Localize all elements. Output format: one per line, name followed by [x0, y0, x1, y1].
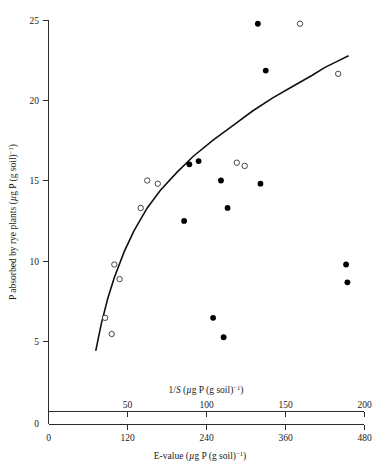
data-point	[335, 71, 340, 76]
data-point	[225, 205, 231, 211]
data-point	[102, 315, 107, 320]
data-point	[210, 315, 216, 321]
y-axis: 25 20 15 10 5 0 P absorbed by rye plants…	[7, 16, 49, 430]
scatter-plot-svg: 25 20 15 10 5 0 P absorbed by rye plants…	[0, 0, 381, 470]
x-axis-title: E-value (µg P (g soil)−1)	[154, 450, 246, 462]
y-ticklabel-15: 15	[30, 176, 40, 186]
x-ticklabel-360: 360	[278, 433, 293, 443]
y-ticklabel-25: 25	[30, 16, 40, 26]
data-point	[263, 68, 269, 74]
data-point	[234, 160, 239, 165]
y-ticklabel-10: 10	[30, 257, 40, 267]
x-ticklabel-0: 0	[46, 433, 51, 443]
data-point	[344, 279, 350, 285]
y-ticklabel-5: 5	[34, 337, 39, 347]
secondary-x-axis-title: 1/S (µg P (g soil)−1)	[169, 384, 244, 396]
figure-container: 25 20 15 10 5 0 P absorbed by rye plants…	[0, 0, 381, 470]
y-ticklabel-0: 0	[34, 419, 39, 429]
fit-curve-group	[96, 56, 348, 350]
data-point	[155, 181, 160, 186]
top-ticklabel-150: 150	[278, 400, 293, 410]
x-ticklabel-120: 120	[120, 433, 135, 443]
data-point	[109, 331, 114, 336]
secondary-x-axis-inverse-s: 50 100 150 200 1/S (µg P (g soil)−1)	[49, 384, 372, 417]
data-point	[221, 334, 227, 340]
data-point	[138, 205, 143, 210]
top-ticklabel-50: 50	[123, 400, 133, 410]
data-point	[297, 21, 302, 26]
fitted-saturation-curve	[96, 56, 348, 350]
data-point	[242, 163, 247, 168]
data-point	[196, 158, 202, 164]
top-ticklabel-100: 100	[199, 400, 214, 410]
series-filled-circles	[181, 21, 350, 340]
data-point	[343, 262, 349, 268]
data-point	[186, 161, 192, 167]
x-axis-evalue: 0 120 240 360 480 E-value (µg P (g soil)…	[46, 425, 372, 463]
x-ticklabel-240: 240	[199, 433, 214, 443]
x-ticklabel-480: 480	[357, 433, 372, 443]
top-ticklabel-200: 200	[357, 400, 372, 410]
data-point	[117, 276, 122, 281]
data-point	[181, 218, 187, 224]
data-point	[112, 262, 117, 267]
data-point	[258, 181, 264, 187]
y-ticklabel-20: 20	[30, 96, 40, 106]
data-point	[145, 178, 150, 183]
data-point	[255, 21, 261, 27]
data-point	[218, 178, 224, 184]
y-axis-title: P absorbed by rye plants (µg P (g soil)−…	[7, 144, 19, 300]
